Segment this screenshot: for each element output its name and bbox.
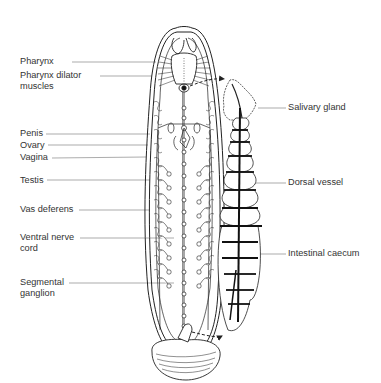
label-pharynx: Pharynx [20,56,54,67]
label-text: ganglion [20,288,64,299]
label-text: Testis [20,175,43,186]
label-text: Segmental [20,277,64,288]
label-vas-deferens: Vas deferens [20,204,73,215]
label-text: Pharynx [20,56,54,67]
label-pharynx-dilator-muscles: Pharynx dilator muscles [20,70,81,92]
label-text: Ovary [20,140,45,151]
label-text: Penis [20,128,43,139]
label-text: Intestinal caecum [288,248,360,259]
label-text: Dorsal vessel [288,177,343,188]
leech-anatomy-diagram: Pharynx Pharynx dilator muscles Penis Ov… [0,0,381,383]
label-ovary: Ovary [20,140,45,151]
label-text: Salivary gland [288,102,346,113]
label-text: Vagina [20,152,48,163]
label-penis: Penis [20,128,43,139]
label-intestinal-caecum: Intestinal caecum [288,248,360,259]
testes-left [158,166,171,289]
label-segmental-ganglion: Segmental ganglion [20,277,64,299]
testes-right [197,166,210,289]
label-salivary-gland: Salivary gland [288,102,346,113]
label-ventral-nerve-cord: Ventral nerve cord [20,232,74,254]
label-text: cord [20,243,74,254]
label-text: Ventral nerve [20,232,74,243]
label-text: Vas deferens [20,204,73,215]
label-text: muscles [20,81,81,92]
label-vagina: Vagina [20,152,48,163]
pharynx-region [158,38,210,92]
label-text: Pharynx dilator [20,70,81,81]
label-dorsal-vessel: Dorsal vessel [288,177,343,188]
label-testis: Testis [20,175,43,186]
diagram-drawing [0,0,381,383]
